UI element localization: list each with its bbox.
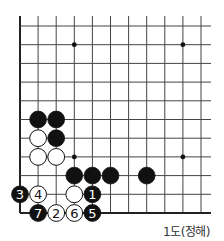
black-stone-disc (138, 167, 155, 184)
stones: 1234567 (12, 111, 156, 221)
black-stone-disc (48, 130, 65, 147)
white-stone-disc (30, 149, 47, 166)
black-stone (66, 167, 83, 184)
star-point (181, 42, 186, 47)
black-stone (48, 130, 65, 147)
black-stone (84, 167, 101, 184)
diagram-caption: 1도(정해) (163, 222, 210, 239)
white-stone (30, 130, 47, 147)
white-stone (30, 149, 47, 166)
numbered-stone-4: 4 (30, 186, 47, 203)
star-point (181, 155, 186, 160)
black-stone-disc (66, 167, 83, 184)
stone-move-number: 5 (88, 206, 96, 221)
stone-move-number: 4 (34, 187, 42, 202)
stone-move-number: 3 (16, 187, 24, 202)
white-stone-disc (30, 130, 47, 147)
black-stone-disc (48, 111, 65, 128)
black-stone (30, 111, 47, 128)
white-stone (48, 149, 65, 166)
white-stone-disc (48, 149, 65, 166)
black-stone-disc (84, 167, 101, 184)
numbered-stone-3: 3 (12, 186, 29, 203)
stone-move-number: 6 (70, 206, 78, 221)
black-stone-disc (30, 111, 47, 128)
black-stone (48, 111, 65, 128)
numbered-stone-5: 5 (84, 205, 101, 222)
go-board: 1234567 (0, 0, 224, 241)
stone-move-number: 1 (88, 187, 96, 202)
numbered-stone-1: 1 (84, 186, 101, 203)
white-stone (66, 186, 83, 203)
stone-move-number: 7 (34, 206, 42, 221)
stone-move-number: 2 (52, 206, 60, 221)
star-point (72, 155, 77, 160)
white-stone-disc (66, 186, 83, 203)
black-stone (102, 167, 119, 184)
numbered-stone-6: 6 (66, 205, 83, 222)
star-point (72, 42, 77, 47)
black-stone (138, 167, 155, 184)
black-stone-disc (102, 167, 119, 184)
numbered-stone-2: 2 (48, 205, 65, 222)
numbered-stone-7: 7 (30, 205, 47, 222)
